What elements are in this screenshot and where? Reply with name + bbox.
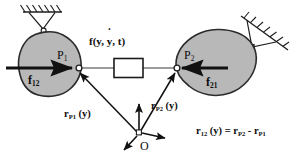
force-element-box: [114, 59, 143, 78]
point-marker-p1: [76, 65, 82, 71]
equation-equals: =: [225, 125, 231, 136]
label-point-2-base: P: [184, 48, 191, 62]
label-force-21: f21: [206, 76, 217, 88]
label-point-1-base: P: [57, 48, 64, 62]
label-point-2: P2: [184, 49, 194, 61]
label-force-12: f12: [28, 74, 39, 86]
equation-lhs-base: r: [196, 125, 201, 136]
equation-t2-sub: P1: [259, 130, 266, 137]
label-force-21-sub: 21: [210, 81, 217, 90]
equation-t1-sub: P2: [238, 130, 245, 137]
label-vector-rp1-sub: P1: [69, 113, 76, 120]
label-point-1-sub: 1: [64, 54, 68, 63]
label-vector-rp1-base: r: [64, 108, 69, 119]
force-element-label: f(y, y, t): [89, 36, 125, 47]
label-point-1: P1: [57, 49, 67, 61]
position-vector-rp1: [80, 73, 138, 133]
equation-t2-base: r: [254, 125, 259, 136]
label-vector-rp2-arg: (y): [166, 100, 178, 111]
equation-lhs-arg: (y): [210, 125, 222, 136]
force-element-label-prefix: f(y,: [89, 35, 107, 47]
support-left: [21, 5, 63, 33]
label-force-12-sub: 12: [32, 79, 39, 88]
force-element-label-suffix: , t): [112, 35, 125, 47]
label-point-2-sub: 2: [191, 54, 195, 63]
force-element-label-ydot: y: [107, 35, 113, 47]
label-origin: O: [140, 140, 149, 152]
equation-r12: r12 (y) = rP2 - rP1: [196, 126, 266, 137]
label-vector-rp2: rP2 (y): [151, 101, 178, 112]
equation-minus: -: [248, 125, 252, 136]
label-vector-rp2-sub: P2: [156, 105, 163, 112]
force-element-connector: [80, 59, 176, 78]
equation-lhs-sub: 12: [201, 130, 208, 137]
point-marker-p2: [174, 65, 180, 71]
label-vector-rp2-base: r: [151, 100, 156, 111]
label-vector-rp1: rP1 (y): [64, 109, 91, 120]
label-vector-rp1-arg: (y): [79, 108, 91, 119]
